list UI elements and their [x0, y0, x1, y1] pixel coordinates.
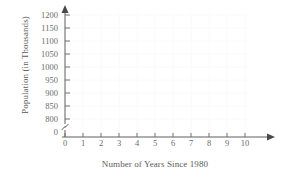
- x-axis-tick-labels: 0 1 2 3 4 5 6 7 8 9 10: [0, 139, 288, 151]
- x-tick-label: 4: [127, 139, 147, 148]
- x-tick-label: 1: [73, 139, 93, 148]
- y-tick-label: 1100: [28, 37, 58, 46]
- y-tick-label: 1050: [28, 50, 58, 59]
- x-tick-label: 2: [91, 139, 111, 148]
- x-axis-ticks: [65, 133, 245, 137]
- x-tick-label: 10: [235, 139, 255, 148]
- y-axis-ticks: [65, 15, 70, 119]
- y-tick-label: 850: [28, 102, 58, 111]
- y-tick-label: 1200: [28, 11, 58, 20]
- population-line-graph: 1200 1150 1100 1050 1000 950 900 850 800…: [0, 0, 288, 182]
- y-origin-label: 0: [28, 128, 58, 137]
- horizontal-gridlines: [65, 15, 248, 119]
- x-axis-title: Number of Years Since 1980: [55, 159, 255, 169]
- y-axis-tick-labels: 1200 1150 1100 1050 1000 950 900 850 800…: [28, 0, 58, 182]
- y-tick-label: 800: [28, 115, 58, 124]
- x-tick-label: 6: [163, 139, 183, 148]
- y-tick-label: 950: [28, 76, 58, 85]
- y-tick-label: 1150: [28, 24, 58, 33]
- vertical-gridlines: [83, 12, 245, 133]
- y-axis-arrow: [62, 5, 69, 13]
- x-tick-label: 8: [199, 139, 219, 148]
- x-tick-label: 3: [109, 139, 129, 148]
- x-tick-label: 5: [145, 139, 165, 148]
- x-tick-label: 7: [181, 139, 201, 148]
- y-axis-break-icon: [62, 124, 69, 130]
- x-tick-label: 9: [217, 139, 237, 148]
- y-tick-label: 1000: [28, 63, 58, 72]
- y-tick-label: 900: [28, 89, 58, 98]
- y-axis-title: Population (in Thousands): [20, 0, 30, 135]
- x-tick-label: 0: [55, 139, 75, 148]
